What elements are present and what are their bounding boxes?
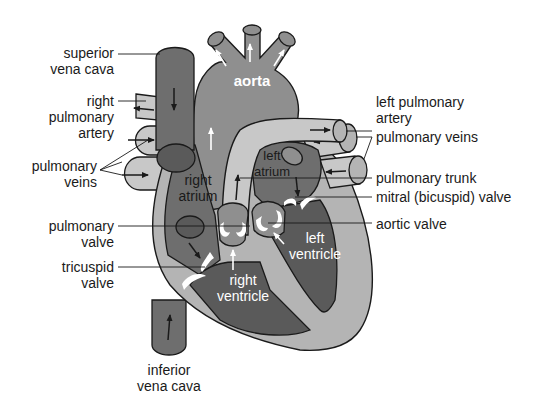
label-pulmonary-valve: pulmonary valve	[49, 218, 114, 250]
label-line: right	[208, 272, 278, 288]
label-line: artery	[49, 125, 114, 141]
label-left-atrium: left atrium	[250, 148, 294, 180]
label-pulmonary-veins-left: pulmonary veins	[32, 158, 97, 190]
label-line: vena cava	[50, 61, 114, 77]
label-line: atrium	[168, 188, 228, 204]
label-superior-vena-cava: superior vena cava	[50, 45, 114, 77]
label-line: left	[280, 230, 350, 246]
label-aortic-valve: aortic valve	[376, 216, 447, 232]
label-right-ventricle: right ventricle	[208, 272, 278, 304]
label-line: ventricle	[208, 288, 278, 304]
label-line: left pulmonary	[376, 94, 464, 110]
label-line: pulmonary	[49, 109, 114, 125]
label-pulmonary-veins-right: pulmonary veins	[376, 129, 478, 145]
label-line: right	[49, 93, 114, 109]
label-pulmonary-trunk: pulmonary trunk	[376, 170, 476, 186]
label-mitral-valve: mitral (bicuspid) valve	[376, 189, 511, 205]
label-line: pulmonary	[32, 158, 97, 174]
label-right-pulmonary-artery: right pulmonary artery	[49, 93, 114, 141]
label-line: ventricle	[280, 246, 350, 262]
label-left-pulmonary-artery: left pulmonary artery	[376, 94, 464, 126]
label-line: vena cava	[131, 378, 207, 394]
pulmonary-valve-shape	[218, 203, 248, 246]
label-line: veins	[32, 174, 97, 190]
label-aorta: aorta	[225, 73, 279, 89]
label-line: aortic valve	[376, 216, 447, 232]
label-line: atrium	[250, 164, 294, 180]
label-line: right	[168, 172, 228, 188]
superior-vena-cava-vessel	[156, 48, 195, 173]
label-tricuspid-valve: tricuspid valve	[62, 259, 114, 291]
label-line: inferior	[131, 362, 207, 378]
label-line: aorta	[225, 73, 279, 89]
label-line: left	[250, 148, 294, 164]
label-line: pulmonary	[49, 218, 114, 234]
label-inferior-vena-cava: inferior vena cava	[131, 362, 207, 394]
label-right-atrium: right atrium	[168, 172, 228, 204]
label-left-ventricle: left ventricle	[280, 230, 350, 262]
label-line: valve	[62, 275, 114, 291]
label-line: pulmonary veins	[376, 129, 478, 145]
label-line: tricuspid	[62, 259, 114, 275]
label-line: valve	[49, 234, 114, 250]
coronary-sinus-opening	[176, 216, 204, 238]
label-line: mitral (bicuspid) valve	[376, 189, 511, 205]
inferior-vena-cava-vessel	[152, 300, 186, 355]
label-line: pulmonary trunk	[376, 170, 476, 186]
label-line: artery	[376, 110, 464, 126]
flow-arrow-icon	[326, 171, 346, 172]
label-line: superior	[50, 45, 114, 61]
